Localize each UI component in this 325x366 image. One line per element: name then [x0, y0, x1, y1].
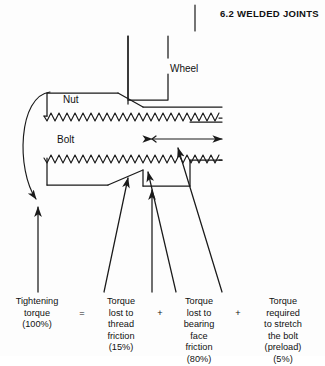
label-wheel: Wheel [170, 63, 198, 74]
thread-zigzag-upper [44, 113, 219, 121]
nut-chamfer-lower [108, 170, 143, 185]
caption-equation: Tightening torque (100%) = Torque lost t… [0, 296, 325, 366]
caption-column-bearing-face-friction: Torque lost to bearing face friction (80… [168, 296, 230, 366]
thread-zigzag-lower [44, 155, 219, 163]
wheel-leader-lower [128, 74, 168, 100]
label-nut: Nut [63, 94, 79, 105]
tightening-torque-arc [23, 92, 50, 199]
caption-operator-equals: = [74, 296, 90, 319]
caption-column-thread-friction: Torque lost to thread friction (15%) [90, 296, 152, 354]
caption-operator-plus-2: + [230, 296, 246, 319]
caption-column-tightening-torque: Tightening torque (100%) [0, 296, 74, 331]
label-bolt: Bolt [57, 134, 74, 145]
leader-preload [178, 148, 222, 292]
caption-column-preload: Torque required to stretch the bolt (pre… [246, 296, 320, 366]
leader-thread-friction [104, 178, 128, 292]
caption-operator-plus-1: + [152, 296, 168, 319]
